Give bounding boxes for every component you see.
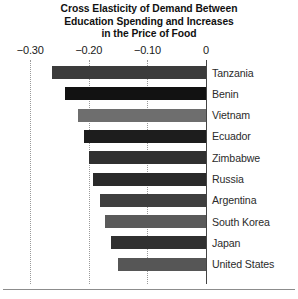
bar <box>52 66 206 79</box>
bar-row: United States <box>0 258 298 271</box>
bar-row: Argentina <box>0 194 298 207</box>
plot-area: TanzaniaBeninVietnamEcuadorZimbabweRussi… <box>0 60 298 284</box>
bar <box>100 194 206 207</box>
bar <box>111 236 206 249</box>
bar-row: Japan <box>0 236 298 249</box>
bar-category-label: Benin <box>212 88 239 100</box>
bar-row: Vietnam <box>0 109 298 122</box>
bar-category-label: Argentina <box>212 194 256 206</box>
bar <box>118 258 206 271</box>
bottom-divider <box>3 289 295 290</box>
bar-row: Zimbabwe <box>0 151 298 164</box>
x-tick-label: −0.20 <box>75 44 102 56</box>
x-tick-label: −0.10 <box>134 44 161 56</box>
bar-row: Benin <box>0 87 298 100</box>
bar-row: Russia <box>0 173 298 186</box>
x-tick-label: −0.30 <box>17 44 44 56</box>
bar-category-label: Japan <box>212 237 240 249</box>
bar-category-label: United States <box>212 258 274 270</box>
bar-category-label: South Korea <box>212 216 270 228</box>
bar-category-label: Russia <box>212 173 244 185</box>
bar-row: South Korea <box>0 215 298 228</box>
bar <box>93 173 206 186</box>
chart-container: Cross Elasticity of Demand Between Educa… <box>0 0 298 299</box>
x-tick-label: 0 <box>203 44 209 56</box>
bar <box>65 87 206 100</box>
bar-category-label: Vietnam <box>212 109 250 121</box>
bar-category-label: Tanzania <box>212 67 254 79</box>
bar-row: Tanzania <box>0 66 298 79</box>
bar <box>89 151 206 164</box>
bar <box>84 130 206 143</box>
bar <box>105 215 206 228</box>
bar-row: Ecuador <box>0 130 298 143</box>
bar <box>78 109 206 122</box>
bar-category-label: Ecuador <box>212 130 251 142</box>
bar-category-label: Zimbabwe <box>212 152 260 164</box>
